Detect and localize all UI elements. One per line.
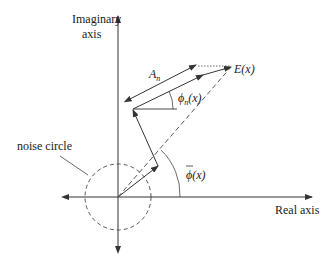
phase-mean-arc bbox=[161, 150, 180, 197]
phasor-diagram: Imaginary axis Real axis noise circle An… bbox=[0, 0, 325, 263]
real-axis-label: Real axis bbox=[275, 203, 320, 217]
phase-n-label: ϕn(x) bbox=[178, 91, 202, 107]
svg-text:ϕ(x): ϕ(x) bbox=[186, 168, 206, 182]
resultant-dashed bbox=[118, 67, 231, 197]
phase-mean-label: ϕ(x) bbox=[186, 166, 206, 182]
imaginary-axis-label-line2: axis bbox=[82, 27, 102, 41]
phase-n-arc bbox=[169, 91, 173, 109]
amplitude-label: An bbox=[148, 67, 160, 83]
field-label: E(x) bbox=[233, 62, 255, 76]
phasor-vector-2 bbox=[133, 110, 158, 166]
phasor-vector-3-tail bbox=[203, 67, 231, 75]
noise-circle-label: noise circle bbox=[17, 139, 72, 153]
noise-circle-leader bbox=[60, 156, 88, 175]
imaginary-axis-label-line1: Imaginary bbox=[72, 12, 121, 26]
